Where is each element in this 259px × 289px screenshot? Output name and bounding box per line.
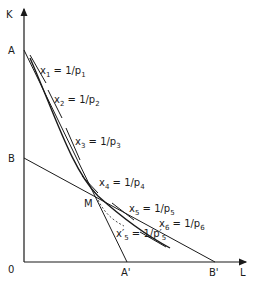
label-x1: x1 = 1/p1 (40, 65, 86, 79)
point-a-label: A (8, 45, 15, 56)
isoquant-curve (30, 58, 170, 248)
dashed-curve-x5-prime (98, 200, 124, 226)
label-x5-prime: x′5 = 1/p′5 (116, 228, 166, 242)
origin-label: 0 (8, 264, 14, 275)
isoquant-diagram: K L 0 A B A' B' M x1 = 1/p1 x2 = 1/p2 x3… (0, 0, 259, 289)
l-axis-label: L (240, 267, 246, 278)
point-m-label: M (84, 198, 93, 209)
label-x4: x4 = 1/p4 (99, 177, 145, 191)
label-x6: x6 = 1/p6 (159, 218, 205, 232)
label-x3: x3 = 1/p3 (75, 136, 121, 150)
k-axis-label: K (6, 9, 13, 20)
label-x2: x2 = 1/p2 (54, 94, 100, 108)
point-b-prime-label: B' (209, 267, 219, 278)
point-b-label: B (8, 153, 15, 164)
label-x5: x5 = 1/p5 (129, 203, 175, 217)
point-a-prime-label: A' (121, 267, 131, 278)
